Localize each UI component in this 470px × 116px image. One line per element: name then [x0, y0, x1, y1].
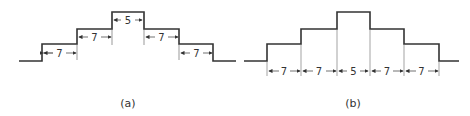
dim-a-3: 5: [125, 15, 131, 26]
dim-b-1: 7: [281, 66, 287, 77]
dim-b-3: 5: [350, 66, 356, 77]
step-profile-b: [244, 12, 459, 61]
caption-a: (a): [120, 97, 135, 110]
dim-a-4: 7: [158, 32, 164, 43]
step-diagrams: 7 7 5 7 7 (a) 7 7 5: [0, 0, 470, 116]
dim-b-5: 7: [418, 66, 424, 77]
figure-b: 7 7 5 7 7 (b): [244, 12, 459, 110]
dim-a-1: 7: [56, 48, 62, 59]
dim-a-2: 7: [91, 32, 97, 43]
dim-a-5: 7: [193, 48, 199, 59]
dim-b-2: 7: [316, 66, 322, 77]
dim-b-4: 7: [384, 66, 390, 77]
caption-b: (b): [345, 97, 361, 110]
figure-a: 7 7 5 7 7 (a): [19, 12, 236, 110]
